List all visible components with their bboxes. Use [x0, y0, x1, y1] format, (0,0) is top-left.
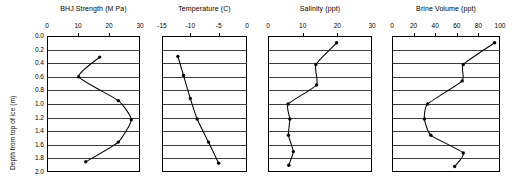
- x-axis-tick-label: 40: [432, 21, 439, 30]
- data-point-marker: [462, 151, 465, 154]
- x-axis-tick-labels: 020406080100: [392, 21, 500, 31]
- data-point-marker: [423, 117, 426, 120]
- x-axis-tick-label: 100: [495, 21, 506, 30]
- data-point-marker: [462, 63, 465, 66]
- data-point-marker: [426, 102, 429, 105]
- x-axis-tick-label: 0: [390, 21, 394, 30]
- figure-root: Depth from top of ice (m) BHJ Strength (…: [0, 0, 515, 182]
- x-axis-tick-label: 60: [453, 21, 460, 30]
- chart-title: Brine Volume (ppt): [392, 4, 500, 13]
- x-axis-tickmarks: [415, 33, 479, 36]
- data-point-marker: [493, 41, 496, 44]
- x-axis-tick-label: 20: [410, 21, 417, 30]
- data-point-marker: [461, 79, 464, 82]
- chart-panel: Brine Volume (ppt)020406080100: [0, 0, 515, 182]
- x-axis-tick-label: 80: [475, 21, 482, 30]
- data-point-marker: [429, 134, 432, 137]
- gridlines: [393, 51, 500, 159]
- data-point-marker: [453, 165, 456, 168]
- plot-canvas: [392, 31, 500, 177]
